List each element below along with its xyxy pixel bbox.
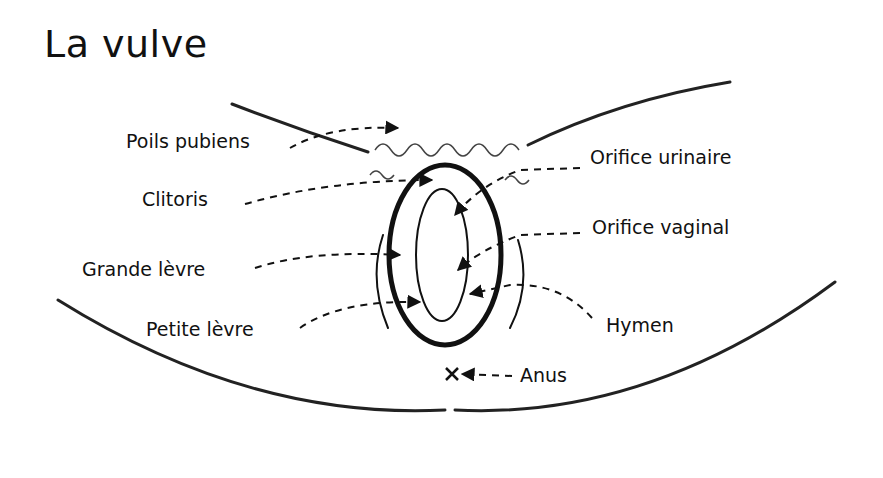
- leader-lines: [245, 128, 592, 376]
- label-anus: Anus: [520, 364, 567, 386]
- label-orifice-urinaire: Orifice urinaire: [590, 146, 731, 168]
- anus-mark: [446, 368, 458, 380]
- label-petite-levre: Petite lèvre: [146, 318, 254, 340]
- label-poils-pubiens: Poils pubiens: [126, 130, 250, 152]
- anatomy-illustration: [0, 0, 883, 478]
- label-hymen: Hymen: [606, 314, 674, 336]
- label-orifice-vaginal: Orifice vaginal: [592, 216, 729, 238]
- label-grande-levre: Grande lèvre: [82, 258, 205, 280]
- label-clitoris: Clitoris: [142, 188, 208, 210]
